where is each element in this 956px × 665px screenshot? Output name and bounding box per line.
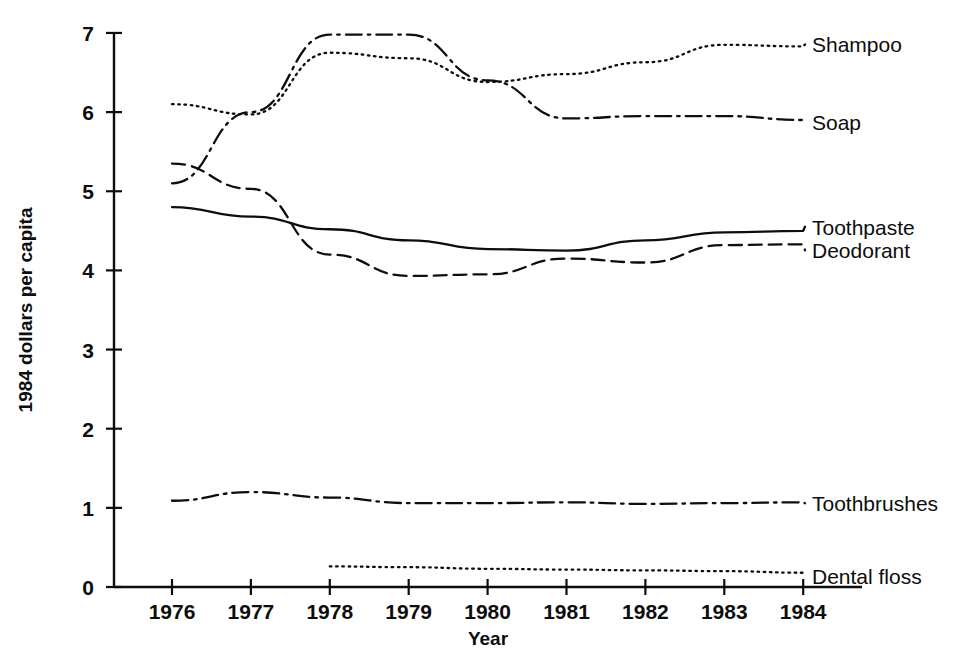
x-axis-title: Year [468,628,509,649]
y-tick-label: 0 [82,576,94,599]
x-tick-label: 1976 [149,600,196,623]
series-label-shampoo: Shampoo [812,33,902,56]
y-axis-title: 1984 dollars per capita [15,207,36,412]
series-line-dental-floss [330,566,805,575]
x-tick-label: 1983 [701,600,748,623]
x-tick-label: 1984 [780,600,827,623]
x-tick-label: 1981 [543,600,590,623]
y-tick-label: 1 [82,497,94,520]
y-tick-label: 5 [82,180,94,203]
y-axis-tick-labels: 01234567 [82,22,94,599]
series-line-soap [172,35,805,184]
x-tick-label: 1982 [622,600,669,623]
series-line-toothbrushes [172,492,805,504]
y-tick-label: 6 [82,101,94,124]
series-label-deodorant: Deodorant [812,239,910,262]
series-line-deodorant [172,164,805,276]
y-tick-label: 4 [82,259,94,282]
series-label-toothbrushes: Toothbrushes [812,492,938,515]
plot-area: 01234567 1976197719781979198019811982198… [0,0,956,665]
series-line-toothpaste [172,207,805,251]
series-label-dental-floss: Dental floss [812,565,922,588]
series-paths-group [172,35,805,576]
y-tick-label: 2 [82,418,94,441]
x-tick-label: 1980 [464,600,511,623]
x-tick-label: 1978 [306,600,353,623]
x-tick-label: 1979 [385,600,432,623]
series-labels-group: ShampooSoapToothpasteDeodorantToothbrush… [812,33,938,587]
series-label-toothpaste: Toothpaste [812,216,915,239]
x-tick-label: 1977 [228,600,275,623]
y-tick-label: 7 [82,22,94,45]
line-chart: 01234567 1976197719781979198019811982198… [0,0,956,665]
x-axis-tick-labels: 197619771978197919801981198219831984 [149,600,827,623]
y-tick-label: 3 [82,339,94,362]
series-label-soap: Soap [812,111,861,134]
